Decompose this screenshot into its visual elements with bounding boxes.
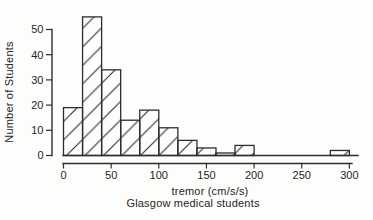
histogram-bar-280-300 (330, 150, 349, 155)
histogram-bars (64, 17, 350, 156)
histogram-bar-80-100 (140, 110, 159, 155)
x-tick-label: 300 (340, 169, 358, 181)
chart-caption: Glasgow medical students (126, 197, 259, 209)
x-tick-label: 250 (293, 169, 311, 181)
y-axis-ticks: 01020304050 (31, 23, 52, 161)
x-axis-ticks: 050100150200250300 (60, 164, 358, 182)
x-axis-title: tremor (cm/s/s) (172, 185, 249, 197)
x-tick-label: 0 (60, 169, 66, 181)
y-tick-label: 20 (31, 99, 43, 111)
y-tick-label: 0 (37, 149, 43, 161)
histogram-bar-60-80 (121, 120, 140, 155)
x-tick-label: 50 (105, 169, 117, 181)
x-tick-label: 150 (197, 169, 215, 181)
y-tick-label: 40 (31, 49, 43, 61)
y-tick-label: 30 (31, 74, 43, 86)
histogram-bar-180-200 (235, 145, 254, 155)
histogram-bar-40-60 (102, 70, 121, 156)
x-tick-label: 200 (245, 169, 263, 181)
histogram-bar-0-20 (64, 108, 83, 156)
histogram-bar-140-160 (197, 148, 216, 156)
y-axis-title: Number of Students (3, 41, 15, 143)
y-tick-label: 10 (31, 124, 43, 136)
tremor-histogram-figure: 01020304050 050100150200250300 Number of… (0, 0, 373, 220)
y-tick-label: 50 (31, 23, 43, 35)
tremor-histogram: 01020304050 050100150200250300 Number of… (0, 0, 373, 220)
histogram-bar-100-120 (159, 128, 178, 156)
x-tick-label: 100 (150, 169, 168, 181)
histogram-bar-120-140 (178, 140, 197, 155)
histogram-bar-20-40 (83, 17, 102, 156)
